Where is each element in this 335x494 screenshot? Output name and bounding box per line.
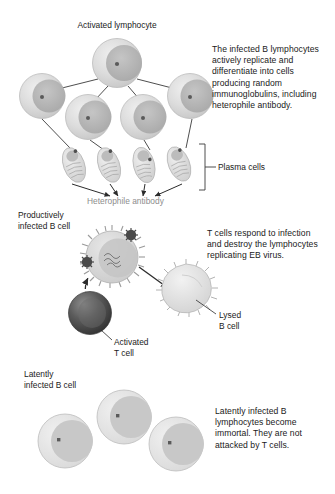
label-latently-infected-b-cell-line1: Latently: [24, 369, 53, 380]
plasma-cells-bracket: [199, 144, 216, 190]
cell-daughter-lymphocyte-2: [66, 95, 112, 140]
paragraph-bottom-right: Latently infected B lymphocytes become i…: [215, 406, 333, 451]
label-productively-infected-b-cell-line2: infected B cell: [18, 221, 70, 232]
cell-activated-lymphocyte: [93, 39, 143, 88]
label-latently-infected-b-cell-line2: infected B cell: [24, 380, 76, 391]
antibody-arrows: [72, 184, 182, 196]
figure-canvas: Activated lymphocyte The infected B lymp…: [0, 0, 335, 494]
cell-plasma-1: [58, 144, 90, 185]
label-lysed-b-cell-line2: B cell: [219, 321, 239, 332]
label-plasma-cells: Plasma cells: [218, 162, 265, 173]
cell-plasma-3: [129, 145, 158, 185]
label-lysed-b-cell-line1: Lysed: [219, 310, 241, 321]
cell-latent-b-2: [97, 390, 152, 444]
cell-plasma-2: [93, 144, 125, 185]
cell-productively-infected-b: [80, 225, 145, 288]
cell-lysed-b: [156, 259, 218, 317]
cell-daughter-lymphocyte-1: [20, 74, 66, 119]
cell-latent-b-3: [149, 417, 204, 471]
paragraph-middle-right: T cells respond to infection and destroy…: [207, 228, 327, 262]
cell-plasma-4: [163, 143, 196, 184]
label-activated-lymphocyte: Activated lymphocyte: [61, 20, 173, 31]
paragraph-top-right: The infected B lymphocytes actively repl…: [212, 44, 334, 111]
label-activated-t-cell-line2: T cell: [114, 348, 134, 359]
label-productively-infected-b-cell-line1: Productively: [18, 210, 64, 221]
virion-particle-2: [80, 255, 94, 269]
cell-daughter-lymphocyte-4: [168, 74, 214, 119]
cell-daughter-lymphocyte-3: [121, 95, 167, 140]
label-heterophile-antibody: Heterophile antibody: [87, 196, 164, 207]
cell-activated-t: [69, 292, 112, 335]
label-activated-t-cell-line1: Activated: [114, 337, 148, 348]
cell-latent-b-1: [38, 414, 93, 468]
activated-t-cell-leader: [101, 330, 112, 340]
virion-particle-1: [124, 228, 138, 242]
